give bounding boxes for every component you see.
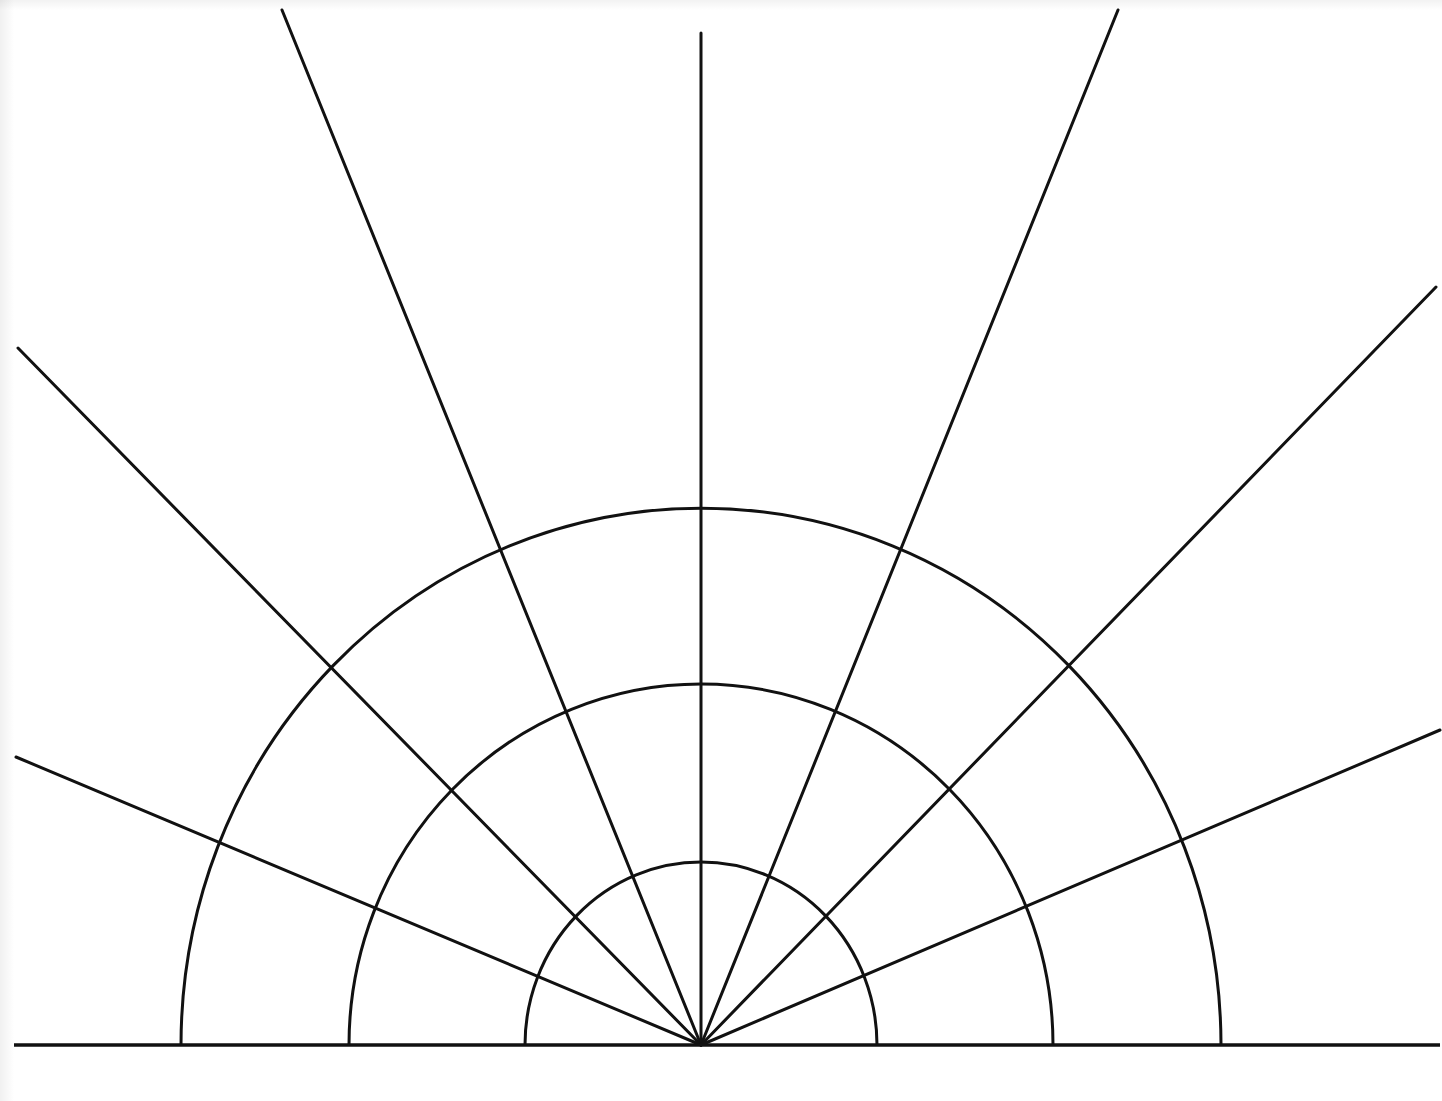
ray-right-mid <box>701 287 1436 1045</box>
paper-edge-shadow-top <box>0 0 1442 10</box>
ray-left-low <box>16 757 701 1045</box>
radial-lines <box>16 10 1440 1045</box>
diagram-canvas <box>0 0 1442 1101</box>
paper-edge-shadow-left <box>0 0 14 1101</box>
ray-right-low <box>701 730 1440 1045</box>
polar-grid <box>0 0 1442 1101</box>
ray-left-mid <box>18 348 701 1045</box>
ray-left-high <box>282 10 701 1045</box>
ray-right-high <box>701 10 1118 1045</box>
